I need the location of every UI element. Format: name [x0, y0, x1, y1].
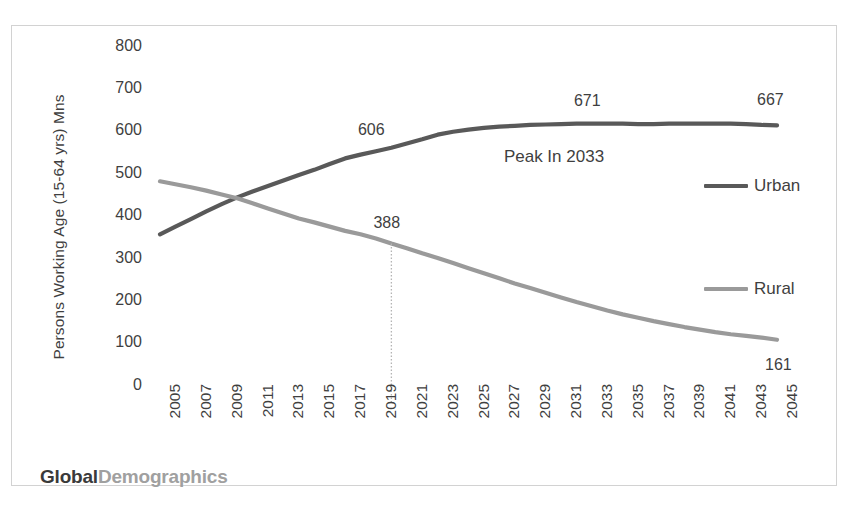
legend-entry-urban[interactable]: Urban — [704, 176, 800, 196]
y-tick-300: 300 — [94, 250, 142, 266]
y-tick-600: 600 — [94, 122, 142, 138]
chart-figure: Persons Working Age (15-64 yrs) Mns 800 … — [0, 0, 858, 507]
x-tick-2043: 2043 — [752, 384, 770, 448]
y-tick-800: 800 — [94, 38, 142, 54]
legend-label-rural: Rural — [754, 279, 795, 299]
x-tick-2045: 2045 — [783, 384, 801, 448]
series-canvas — [149, 44, 839, 404]
x-tick-2017: 2017 — [351, 384, 369, 448]
plot-area — [149, 44, 839, 404]
x-tick-2035: 2035 — [629, 384, 647, 448]
x-tick-2029: 2029 — [536, 384, 554, 448]
x-tick-2031: 2031 — [567, 384, 585, 448]
data-label-388: 388 — [373, 214, 400, 232]
peak-annotation: Peak In 2033 — [504, 147, 604, 167]
data-label-161: 161 — [765, 356, 792, 374]
x-tick-2011: 2011 — [259, 384, 277, 448]
branding-secondary-text: Demographics — [98, 466, 228, 487]
x-tick-2005: 2005 — [166, 384, 184, 448]
x-tick-2009: 2009 — [228, 384, 246, 448]
x-tick-2007: 2007 — [197, 384, 215, 448]
x-tick-2041: 2041 — [721, 384, 739, 448]
x-tick-2039: 2039 — [690, 384, 708, 448]
y-tick-0: 0 — [94, 377, 142, 393]
x-tick-2033: 2033 — [598, 384, 616, 448]
x-tick-2013: 2013 — [289, 384, 307, 448]
data-label-606: 606 — [358, 121, 385, 139]
data-label-671: 671 — [574, 92, 601, 110]
x-tick-2019: 2019 — [382, 384, 400, 448]
branding-logo: GlobalDemographics — [40, 466, 228, 488]
legend-swatch-urban — [704, 184, 748, 188]
x-tick-2037: 2037 — [660, 384, 678, 448]
y-axis-title: Persons Working Age (15-64 yrs) Mns — [50, 62, 68, 392]
x-axis-tick-labels: 2005200720092011201320152017201920212023… — [149, 386, 839, 456]
series-line-rural — [160, 181, 777, 339]
series-line-urban — [160, 124, 777, 235]
y-tick-200: 200 — [94, 292, 142, 308]
x-tick-2027: 2027 — [505, 384, 523, 448]
branding-primary-text: Global — [40, 466, 98, 487]
y-tick-400: 400 — [94, 207, 142, 223]
data-label-667: 667 — [757, 91, 784, 109]
x-tick-2025: 2025 — [475, 384, 493, 448]
y-tick-100: 100 — [94, 334, 142, 350]
chart-frame: Persons Working Age (15-64 yrs) Mns 800 … — [11, 25, 837, 486]
legend-label-urban: Urban — [754, 176, 800, 196]
y-tick-700: 700 — [94, 80, 142, 96]
legend-entry-rural[interactable]: Rural — [704, 279, 795, 299]
x-tick-2015: 2015 — [320, 384, 338, 448]
y-axis-tick-labels: 800 700 600 500 400 300 200 100 0 — [90, 26, 142, 487]
x-tick-2021: 2021 — [413, 384, 431, 448]
y-tick-500: 500 — [94, 165, 142, 181]
x-tick-2023: 2023 — [444, 384, 462, 448]
legend-swatch-rural — [704, 287, 748, 291]
